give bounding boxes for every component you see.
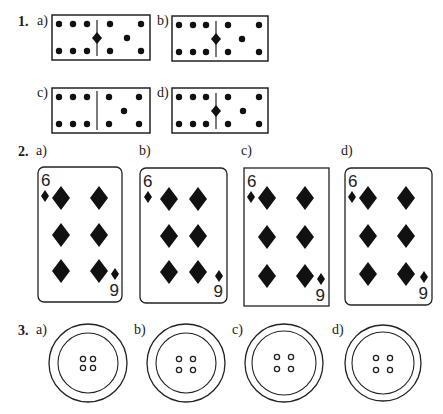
question-number-2: 2. (18, 144, 29, 160)
svg-text:6: 6 (247, 172, 256, 191)
card-2c[interactable]: 6 9 (243, 167, 330, 307)
svg-text:9: 9 (419, 284, 428, 303)
question-number-1: 1. (18, 14, 29, 30)
svg-text:6: 6 (348, 172, 357, 191)
domino-1a[interactable] (51, 14, 151, 61)
button-3a[interactable] (47, 322, 129, 404)
option-label-1c: c) (37, 85, 48, 101)
option-label-2b: b) (139, 143, 151, 159)
button-3c[interactable] (243, 322, 325, 404)
option-label-3c: c) (232, 322, 243, 338)
button-3d[interactable] (343, 323, 423, 403)
svg-text:9: 9 (316, 286, 325, 305)
domino-1d[interactable] (171, 87, 269, 134)
button-3b[interactable] (145, 322, 227, 404)
option-label-2c: c) (241, 143, 252, 159)
option-label-1d: d) (157, 85, 169, 101)
card-2b[interactable]: 6 9 (139, 167, 228, 304)
option-label-1b: b) (157, 13, 169, 29)
option-label-2a: a) (36, 143, 47, 159)
domino-1b[interactable] (171, 15, 269, 62)
question-number-3: 3. (18, 323, 29, 339)
option-label-2d: d) (341, 143, 353, 159)
card-2a[interactable]: 6 9 (37, 166, 123, 303)
option-label-3d: d) (332, 322, 344, 338)
card-2d[interactable]: 6 9 (344, 167, 433, 306)
card-rank-top: 6 (41, 171, 50, 190)
card-rank-bottom: 9 (110, 281, 119, 300)
svg-text:9: 9 (214, 282, 223, 301)
option-label-3b: b) (134, 322, 146, 338)
domino-1c[interactable] (51, 87, 151, 134)
svg-text:6: 6 (143, 172, 152, 191)
option-label-3a: a) (36, 322, 47, 338)
option-label-1a: a) (37, 13, 48, 29)
